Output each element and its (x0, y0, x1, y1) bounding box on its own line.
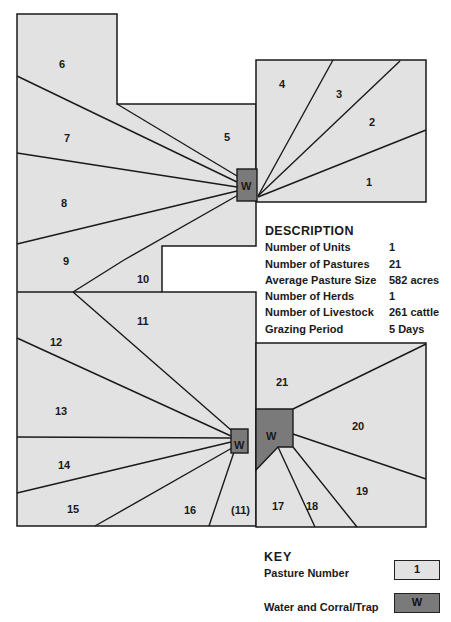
description-value: 5 Days (389, 321, 424, 337)
pasture-label: 7 (64, 132, 70, 144)
description-title: DESCRIPTION (265, 223, 439, 239)
water-corral-bottom-left: W (231, 429, 248, 453)
description-key: Average Pasture Size (265, 272, 389, 288)
pasture-label: (11) (231, 504, 250, 516)
pasture-label: 13 (55, 405, 67, 417)
pasture-label: 1 (366, 176, 372, 188)
legend: KEY Pasture Number 1 Water and Corral/Tr… (264, 550, 292, 564)
pasture-label: 6 (59, 58, 65, 70)
description-key: Number of Pastures (265, 256, 389, 272)
description-value: 261 cattle (389, 304, 439, 320)
pasture-label: 9 (63, 255, 69, 267)
pasture-label: 15 (67, 503, 79, 515)
pasture-label: 16 (184, 504, 196, 516)
pasture-label: 14 (58, 459, 71, 471)
pasture-label: 21 (276, 376, 288, 388)
pasture-label: 2 (369, 116, 375, 128)
pasture-label: 4 (279, 78, 286, 90)
description-key: Number of Units (265, 239, 389, 255)
pasture-label: 11 (137, 315, 149, 327)
description-key: Grazing Period (265, 321, 389, 337)
pasture-label: 5 (224, 131, 230, 143)
water-corral-top: W (237, 169, 257, 201)
pasture-label: 10 (137, 273, 149, 285)
description-row: Number of Pastures 21 (265, 256, 439, 272)
water-label: W (266, 430, 277, 442)
description-row: Average Pasture Size 582 acres (265, 272, 439, 288)
water-label: W (234, 439, 245, 451)
description-row: Number of Units 1 (265, 239, 439, 255)
legend-water-swatch: W (394, 593, 440, 613)
legend-title: KEY (264, 550, 292, 564)
description-row: Number of Livestock 261 cattle (265, 304, 439, 320)
description-key: Number of Herds (265, 288, 389, 304)
description-value: 1 (389, 288, 395, 304)
legend-pasture-label: Pasture Number (264, 567, 349, 579)
legend-water-label: Water and Corral/Trap (264, 601, 379, 613)
description-value: 1 (389, 239, 395, 255)
pasture-label: 8 (61, 197, 67, 209)
description-value: 21 (389, 256, 401, 272)
pasture-label: 17 (272, 500, 284, 512)
description-row: Number of Herds 1 (265, 288, 439, 304)
legend-pasture-swatch: 1 (394, 560, 440, 580)
pasture-label: 20 (352, 420, 364, 432)
description-key: Number of Livestock (265, 304, 389, 320)
pasture-label: 12 (50, 336, 62, 348)
description-value: 582 acres (389, 272, 439, 288)
description-row: Grazing Period 5 Days (265, 321, 439, 337)
pasture-label: 19 (356, 485, 368, 497)
description-panel: DESCRIPTION Number of Units 1 Number of … (265, 223, 439, 337)
pasture-label: 18 (306, 500, 318, 512)
water-label: W (241, 180, 252, 192)
pasture-label: 3 (336, 88, 342, 100)
